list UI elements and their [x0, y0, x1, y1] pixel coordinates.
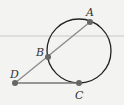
point-A [87, 19, 93, 25]
point-B [45, 54, 51, 60]
secant-DA [15, 22, 90, 83]
label-B: B [35, 46, 44, 59]
circle [47, 19, 111, 83]
label-C: C [75, 89, 84, 102]
geometry-diagram: A B C D [0, 0, 124, 105]
label-A: A [85, 6, 94, 19]
point-C [76, 80, 82, 86]
label-D: D [9, 68, 19, 81]
